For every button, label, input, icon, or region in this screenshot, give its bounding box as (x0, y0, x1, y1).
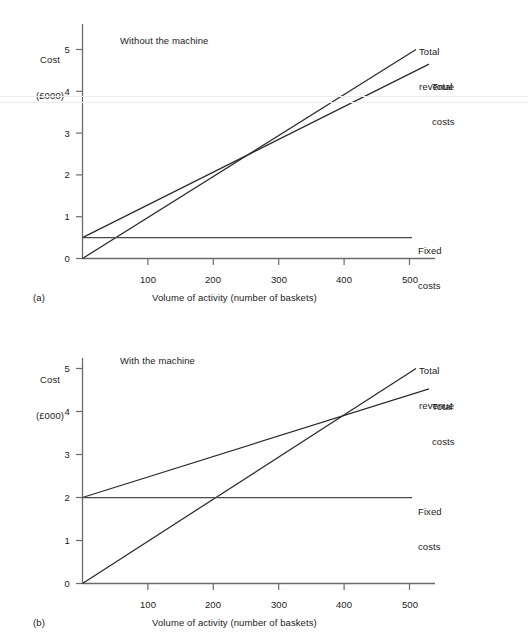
x-ticks-b (148, 584, 410, 591)
x-tick-label-500-b: 500 (390, 599, 430, 611)
series-label-total-revenue-b-line1: Total (419, 365, 454, 377)
series-label-total-costs-a-line2: costs (432, 116, 455, 128)
x-tick-label-400-b: 400 (324, 599, 364, 611)
y-axis-title-line1-a: Cost (22, 54, 78, 66)
x-tick-label-300-b: 300 (259, 599, 299, 611)
series-total-costs-b (83, 389, 430, 498)
x-axis-title-b: Volume of activity (number of baskets) (152, 617, 317, 629)
y-tick-label-2-a: 2 (52, 169, 70, 181)
x-tick-label-300-a: 300 (259, 274, 299, 286)
x-tick-label-100-a: 100 (128, 274, 168, 286)
panel-note-a: Without the machine (120, 35, 209, 47)
y-tick-label-1-a: 1 (52, 211, 70, 223)
y-axis-title-line1-b: Cost (22, 374, 78, 386)
series-label-total-costs-a-line1: Total (432, 81, 455, 93)
chart-panel-a: Cost (£000) 5 4 3 2 1 0 100 200 300 400 … (0, 0, 528, 320)
panel-note-b: With the machine (120, 355, 195, 367)
x-tick-label-400-a: 400 (324, 274, 364, 286)
series-label-total-costs-b-line1: Total (432, 401, 455, 413)
series-label-fixed-costs-a-line2: costs (418, 280, 442, 292)
y-tick-label-1-b: 1 (52, 535, 70, 547)
y-tick-label-5-a: 5 (52, 44, 70, 56)
series-label-fixed-costs-b-line1: Fixed (418, 506, 442, 518)
y-tick-label-2-b: 2 (52, 492, 70, 504)
series-label-fixed-costs-b: Fixed costs (418, 483, 442, 575)
x-ticks-a (148, 259, 410, 266)
y-tick-label-0-b: 0 (52, 578, 70, 590)
y-tick-label-3-a: 3 (52, 128, 70, 140)
series-label-fixed-costs-b-line2: costs (418, 541, 442, 553)
y-tick-label-3-b: 3 (52, 449, 70, 461)
y-tick-label-5-b: 5 (52, 363, 70, 375)
x-tick-label-200-b: 200 (193, 599, 233, 611)
x-axis-title-a: Volume of activity (number of baskets) (152, 292, 317, 304)
y-tick-label-0-a: 0 (52, 253, 70, 265)
chart-panel-b: Cost (£000) 5 4 3 2 1 0 100 200 300 400 … (0, 320, 528, 640)
scan-artifact-line-2 (0, 102, 528, 103)
series-label-total-costs-b: Total costs (432, 378, 455, 470)
series-label-fixed-costs-a-line1: Fixed (418, 245, 442, 257)
y-tick-label-4-b: 4 (52, 406, 70, 418)
series-label-total-costs-a: Total costs (432, 58, 455, 150)
x-tick-label-100-b: 100 (128, 599, 168, 611)
series-total-revenue-b (83, 369, 417, 584)
series-label-total-costs-b-line2: costs (432, 436, 455, 448)
figure-caption-b: (b) (33, 617, 45, 629)
series-label-fixed-costs-a: Fixed costs (418, 222, 442, 314)
x-tick-label-200-a: 200 (193, 274, 233, 286)
series-label-total-revenue-a-line1: Total (419, 46, 454, 58)
scan-artifact-line-1 (0, 96, 528, 97)
figure-caption-a: (a) (33, 292, 45, 304)
series-total-costs-a (83, 64, 430, 238)
